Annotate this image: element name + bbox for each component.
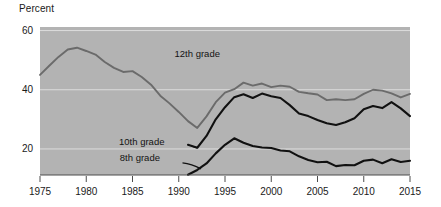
x-tick-label: 1980	[75, 186, 98, 197]
y-tick-label: 20	[22, 143, 34, 154]
plot-area-background	[40, 27, 410, 175]
y-tick-label: 40	[22, 84, 34, 95]
x-tick-label: 2010	[353, 186, 376, 197]
x-tick-label: 1975	[29, 186, 52, 197]
x-tick-label: 1985	[121, 186, 144, 197]
x-tick-label: 2005	[306, 186, 329, 197]
line-chart: 1975198019851990199520002005201020152040…	[0, 0, 441, 207]
x-tick-label: 1995	[214, 186, 237, 197]
y-tick-label: 60	[22, 25, 34, 36]
chart-figure: Percent 19751980198519901995200020052010…	[0, 0, 441, 207]
series-annotation-12th-grade: 12th grade	[175, 48, 220, 59]
series-annotation-10th-grade: 10th grade	[119, 136, 164, 147]
series-annotation-8th-grade: 8th grade	[120, 152, 160, 163]
x-tick-label: 2000	[260, 186, 283, 197]
x-tick-label: 1990	[168, 186, 191, 197]
x-tick-label: 2015	[399, 186, 422, 197]
